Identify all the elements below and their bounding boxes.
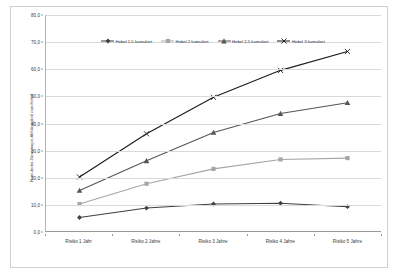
data-point-cross [281, 38, 286, 43]
x-axis-tick [314, 234, 315, 236]
gridline [46, 96, 381, 97]
series-line [80, 158, 348, 204]
y-axis-tick-label: 20,0 [31, 175, 40, 180]
x-axis-tick [247, 234, 248, 236]
data-point-cross [144, 131, 149, 136]
chart-legend: Hebel 1,5 kumuliertHebel 2 kumuliertHebe… [45, 35, 381, 47]
y-axis-tick [41, 69, 43, 70]
x-axis-tick [45, 234, 46, 236]
y-axis-tick-label: 30,0 [31, 148, 40, 153]
data-point-diamond [77, 215, 82, 220]
data-point-square [345, 156, 349, 160]
y-axis-tick [41, 177, 43, 178]
legend-item[interactable]: Hebel 2,5 kumuliert [218, 38, 269, 44]
legend-item[interactable]: Hebel 2 kumuliert [161, 38, 208, 44]
y-axis-tick-label: 0,0 [34, 230, 40, 235]
legend-label: Hebel 1,5 kumuliert [116, 39, 152, 44]
data-point-square [165, 39, 169, 43]
data-point-square [278, 157, 282, 161]
x-axis-labels: Risiko 1 JahrRisiko 2 JahreRisiko 3 Jahr… [45, 234, 381, 252]
data-point-triangle [77, 188, 83, 193]
x-axis-tick-label: Risiko 4 Jahre [266, 239, 295, 244]
legend-label: Hebel 3 kumuliert [292, 39, 325, 44]
data-point-diamond [144, 206, 149, 211]
legend-swatch-triangle-icon [218, 38, 231, 44]
legend-item[interactable]: Hebel 1,5 kumuliert [101, 38, 152, 44]
y-axis-tick [41, 150, 43, 151]
gridline [46, 124, 381, 125]
y-axis-tick-label: 40,0 [31, 121, 40, 126]
gridline [46, 178, 381, 179]
legend-item[interactable]: Hebel 3 kumuliert [277, 38, 324, 44]
x-axis-tick-label: Risiko 1 Jahr [65, 239, 92, 244]
y-axis-tick-label: 60,0 [31, 67, 40, 72]
data-point-triangle [144, 158, 150, 163]
x-axis-tick-label: Risiko 3 Jahre [198, 239, 227, 244]
plot-area-wrapper: Risiko 1 JahrRisiko 2 JahreRisiko 3 Jahr… [45, 15, 381, 255]
y-axis-tick-label: 10,0 [31, 202, 40, 207]
gridline [46, 69, 381, 70]
legend-swatch-cross-icon [277, 38, 290, 44]
legend-label: Hebel 2 kumuliert [176, 39, 209, 44]
y-axis-tick [41, 123, 43, 124]
legend-swatch-diamond-icon [101, 38, 114, 44]
y-axis-tick [41, 232, 43, 233]
x-axis-tick [112, 234, 113, 236]
gridline [46, 15, 381, 16]
gridline [46, 205, 381, 206]
data-point-diamond [105, 39, 110, 44]
y-axis-tick [41, 204, 43, 205]
data-point-square [211, 167, 215, 171]
y-axis-tick [41, 15, 43, 16]
y-axis-tick-label: 70,0 [31, 40, 40, 45]
y-axis-tick-label: 80,0 [31, 13, 40, 18]
y-axis-tick [41, 96, 43, 97]
gridline [46, 151, 381, 152]
series-line [80, 51, 348, 177]
y-axis-tick-label: 50,0 [31, 94, 40, 99]
chart-frame: Kumulierter Zinsertrag in Abhängigkeit v… [10, 6, 388, 268]
data-point-square [144, 182, 148, 186]
plot-area [45, 15, 381, 232]
legend-swatch-square-icon [161, 38, 174, 44]
x-axis-tick-label: Risiko 2 Jahre [131, 239, 160, 244]
data-point-triangle [221, 38, 227, 43]
x-axis-tick [381, 234, 382, 236]
y-axis-labels: 0,010,020,030,040,050,060,070,080,0 [11, 15, 43, 255]
y-axis-tick [41, 42, 43, 43]
legend-label: Hebel 2,5 kumuliert [232, 39, 268, 44]
x-axis-tick [179, 234, 180, 236]
x-axis-tick-label: Risiko 5 Jahre [333, 239, 362, 244]
